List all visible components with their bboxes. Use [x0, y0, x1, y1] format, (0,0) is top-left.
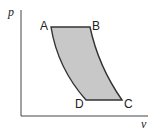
point-a-label: A	[40, 19, 48, 33]
point-b-label: B	[92, 19, 100, 33]
x-axis-label: v	[141, 117, 147, 130]
pv-diagram: p v A B C D	[0, 0, 166, 130]
cycle-region	[51, 27, 122, 100]
point-d-label: D	[75, 97, 84, 111]
y-axis-label: p	[7, 5, 14, 19]
point-c-label: C	[124, 97, 133, 111]
